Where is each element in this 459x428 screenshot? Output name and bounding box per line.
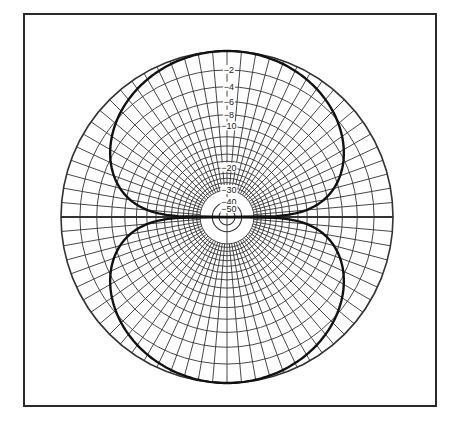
- ring-label: −2: [224, 65, 234, 75]
- ring-label: −4: [224, 82, 234, 92]
- grid-spoke: [246, 236, 344, 334]
- ring-label: −8: [224, 110, 234, 120]
- ring-label: −30: [221, 185, 236, 195]
- polar-chart: −2−4−6−8−10−20−30−40−50: [0, 0, 459, 428]
- ring-label: −20: [221, 163, 236, 173]
- ring-label: −10: [221, 121, 236, 131]
- grid-spoke: [110, 236, 208, 334]
- grid-spoke: [246, 100, 344, 198]
- ring-label: −50: [221, 204, 236, 214]
- grid-spoke: [110, 100, 208, 198]
- ring-labels: −2−4−6−8−10−20−30−40−50: [221, 65, 238, 214]
- ring-label: −6: [224, 97, 234, 107]
